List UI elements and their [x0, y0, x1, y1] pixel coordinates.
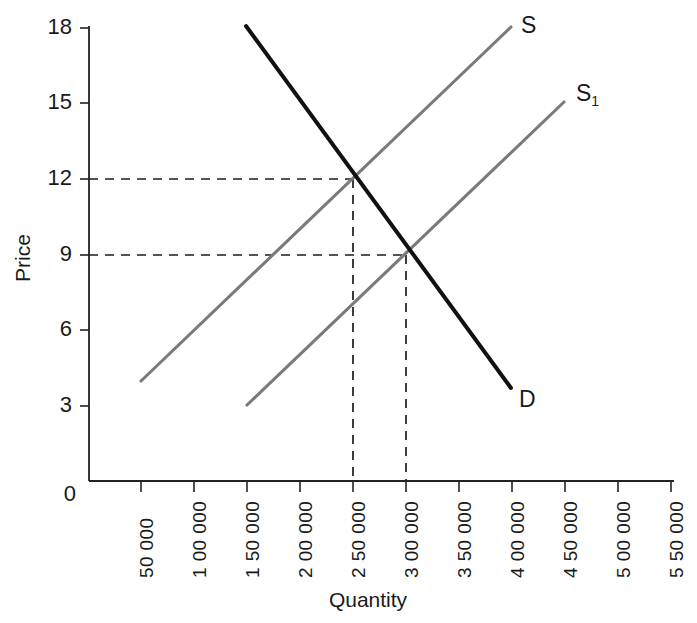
y-tick-marks	[80, 28, 89, 406]
x-tick-label-400000: 4 00 000	[507, 501, 528, 578]
y-tick-label-6: 6	[60, 316, 72, 341]
equilibrium-guidelines	[89, 179, 406, 481]
x-tick-label-50000: 50 000	[136, 517, 157, 578]
y-tick-label-9: 9	[60, 241, 72, 266]
demand-curve-d	[246, 26, 511, 388]
x-tick-label-100000: 1 00 000	[189, 501, 210, 578]
x-tick-label-300000: 3 00 000	[401, 501, 422, 578]
x-tick-label-550000: 5 50 000	[666, 501, 687, 578]
curve-label-s1: S1	[576, 80, 599, 109]
x-tick-label-250000: 2 50 000	[348, 501, 369, 578]
y-tick-label-18: 18	[48, 14, 72, 39]
x-tick-label-500000: 5 00 000	[613, 501, 634, 578]
y-tick-labels: 18 15 12 9 6 3 0	[48, 14, 76, 506]
y-tick-label-15: 15	[48, 89, 72, 114]
x-tick-labels: 50 000 1 00 000 1 50 000 2 00 000 2 50 0…	[136, 501, 687, 578]
x-tick-label-200000: 2 00 000	[295, 501, 316, 578]
x-tick-marks	[141, 481, 671, 492]
x-axis-title: Quantity	[329, 588, 408, 611]
y-tick-label-3: 3	[60, 392, 72, 417]
curve-label-d: D	[519, 386, 536, 412]
curve-label-s1-subscript: 1	[591, 93, 599, 109]
supply-demand-chart: 18 15 12 9 6 3 0 Price 50 000 1 0	[0, 0, 697, 623]
x-tick-label-150000: 1 50 000	[242, 501, 263, 578]
curve-labels-group: S S1 D	[519, 12, 599, 412]
curve-label-s1-base: S	[576, 80, 591, 106]
chart-canvas: 18 15 12 9 6 3 0 Price 50 000 1 0	[0, 0, 697, 623]
x-tick-label-450000: 4 50 000	[560, 501, 581, 578]
x-tick-label-350000: 3 50 000	[454, 501, 475, 578]
curve-label-s: S	[521, 12, 536, 38]
y-tick-label-12: 12	[48, 165, 72, 190]
origin-label: 0	[64, 481, 76, 506]
y-axis-title: Price	[11, 234, 34, 282]
